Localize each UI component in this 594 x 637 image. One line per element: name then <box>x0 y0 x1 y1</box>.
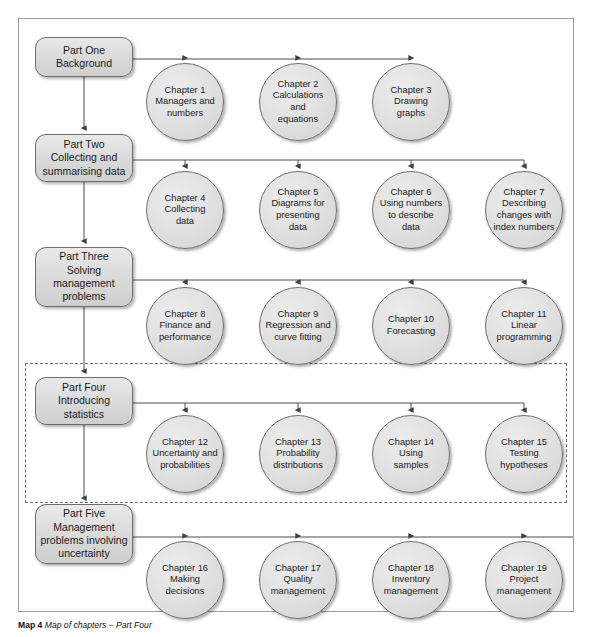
chapter-node-label: Chapter 6 Using numbers to describe data <box>376 187 447 233</box>
figure-caption: Map 4 Map of chapters – Part Four <box>18 620 578 631</box>
chapter-node[interactable]: Chapter 2 Calculations and equations <box>259 63 337 141</box>
part-box-label: Part Two Collecting and summarising data <box>43 138 126 178</box>
chapter-node-label: Chapter 11 Linear programming <box>493 309 556 344</box>
chapter-node-label: Chapter 3 Drawing graphs <box>387 85 436 120</box>
chapter-node[interactable]: Chapter 13 Probability distributions <box>259 415 337 493</box>
figure-frame: Part One BackgroundChapter 1 Managers an… <box>18 18 574 612</box>
chapter-node[interactable]: Chapter 3 Drawing graphs <box>372 63 450 141</box>
part-box-part-five[interactable]: Part Five Management problems involving … <box>35 504 133 564</box>
chapter-node-label: Chapter 16 Making decisions <box>158 563 212 598</box>
chapter-node[interactable]: Chapter 16 Making decisions <box>146 541 224 619</box>
part-box-part-one[interactable]: Part One Background <box>35 37 133 77</box>
chapter-map-diagram: Part One BackgroundChapter 1 Managers an… <box>19 19 573 611</box>
chapter-node[interactable]: Chapter 8 Finance and performance <box>146 287 224 365</box>
chapter-node[interactable]: Chapter 18 Inventory management <box>372 541 450 619</box>
chapter-node[interactable]: Chapter 7 Describing changes with index … <box>485 171 563 249</box>
chapter-node-label: Chapter 1 Managers and numbers <box>151 85 218 120</box>
part-box-part-four[interactable]: Part Four Introducing statistics <box>35 377 133 425</box>
chapter-node-label: Chapter 13 Probability distributions <box>269 437 327 472</box>
chapter-node-label: Chapter 17 Quality management <box>267 563 329 598</box>
chapter-node-label: Chapter 10 Forecasting <box>383 314 440 337</box>
chapter-node-label: Chapter 4 Collecting data <box>161 193 210 228</box>
chapter-node[interactable]: Chapter 4 Collecting data <box>146 171 224 249</box>
chapter-node[interactable]: Chapter 15 Testing hypotheses <box>485 415 563 493</box>
part-box-part-two[interactable]: Part Two Collecting and summarising data <box>35 134 133 182</box>
part-box-label: Part Three Solving management problems <box>53 250 114 304</box>
chapter-node[interactable]: Chapter 10 Forecasting <box>372 287 450 365</box>
chapter-node[interactable]: Chapter 5 Diagrams for presenting data <box>259 171 337 249</box>
chapter-node-label: Chapter 14 Using samples <box>384 437 438 472</box>
part-box-label: Part Five Management problems involving … <box>41 507 128 561</box>
chapter-node-label: Chapter 18 Inventory management <box>380 563 442 598</box>
part-box-label: Part One Background <box>56 44 112 71</box>
chapter-node[interactable]: Chapter 6 Using numbers to describe data <box>372 171 450 249</box>
part-box-label: Part Four Introducing statistics <box>58 381 110 421</box>
part-box-part-three[interactable]: Part Three Solving management problems <box>35 247 133 307</box>
caption-text: Map of chapters – Part Four <box>45 620 152 630</box>
chapter-node-label: Chapter 8 Finance and performance <box>155 309 215 344</box>
caption-label: Map 4 <box>18 620 42 630</box>
chapter-node[interactable]: Chapter 17 Quality management <box>259 541 337 619</box>
chapter-node[interactable]: Chapter 11 Linear programming <box>485 287 563 365</box>
chapter-node-label: Chapter 2 Calculations and equations <box>260 79 336 125</box>
chapter-node-label: Chapter 9 Regression and curve fitting <box>261 309 334 344</box>
chapter-node[interactable]: Chapter 19 Project management <box>485 541 563 619</box>
chapter-node[interactable]: Chapter 12 Uncertainty and probabilities <box>146 415 224 493</box>
chapter-node-label: Chapter 19 Project management <box>493 563 555 598</box>
chapter-node-label: Chapter 12 Uncertainty and probabilities <box>148 437 221 472</box>
chapter-node-label: Chapter 7 Describing changes with index … <box>490 187 559 233</box>
chapter-node[interactable]: Chapter 14 Using samples <box>372 415 450 493</box>
chapter-node-label: Chapter 5 Diagrams for presenting data <box>267 187 328 233</box>
chapter-node[interactable]: Chapter 1 Managers and numbers <box>146 63 224 141</box>
chapter-node[interactable]: Chapter 9 Regression and curve fitting <box>259 287 337 365</box>
chapter-node-label: Chapter 15 Testing hypotheses <box>496 437 552 472</box>
